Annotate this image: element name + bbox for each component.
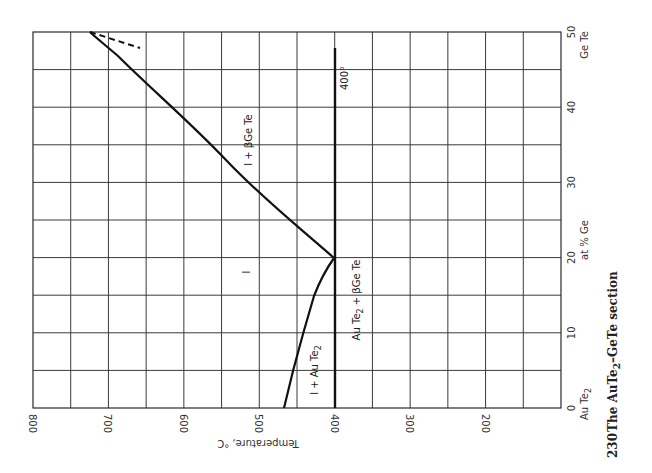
temperature-tick-label: 300 bbox=[404, 414, 415, 433]
temperature-tick-label: 200 bbox=[480, 414, 491, 433]
figure-caption: The AuTe2–GeTe section bbox=[606, 271, 622, 432]
temperature-tick-label: 500 bbox=[253, 414, 264, 433]
region-liquid-gete-label: l + βGe Te bbox=[243, 114, 254, 166]
region-aute2-gete-label: Au Te2 + βGe Te bbox=[351, 260, 365, 341]
temperature-tick-label: 800 bbox=[27, 414, 38, 433]
composition-tick-label: 10 bbox=[566, 326, 577, 339]
temperature-tick-label: 700 bbox=[102, 414, 113, 433]
composition-tick-label: 50 bbox=[566, 26, 577, 39]
figure-number: 230 bbox=[606, 433, 620, 458]
gete-end-label: Ge Te bbox=[579, 31, 590, 59]
y-axis-title: Temperature, °C bbox=[217, 438, 300, 449]
temperature-tick-labels: 800700600500400300200 bbox=[27, 414, 491, 433]
composition-tick-label: 40 bbox=[566, 101, 577, 114]
composition-tick-label: 20 bbox=[566, 251, 577, 264]
composition-tick-label: 0 bbox=[566, 405, 577, 411]
aute2-end-label: Au Te2 bbox=[579, 388, 593, 420]
isotherm-400-label: 400° bbox=[339, 66, 350, 90]
temperature-tick-label: 600 bbox=[178, 414, 189, 433]
x-axis-title: at % Ge bbox=[579, 220, 590, 260]
grid bbox=[33, 32, 561, 408]
composition-tick-label: 30 bbox=[566, 176, 577, 189]
region-liquid-label: l bbox=[241, 271, 252, 274]
phase-diagram: 800700600500400300200 01020304050 Ge Te … bbox=[0, 0, 652, 473]
temperature-tick-label: 400 bbox=[329, 414, 340, 433]
composition-tick-labels: 01020304050 bbox=[566, 26, 577, 412]
